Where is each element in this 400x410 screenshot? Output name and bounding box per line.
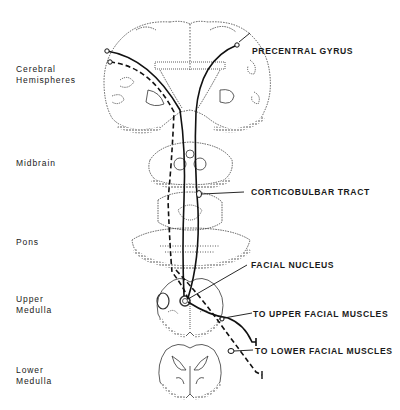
- label-pons: Pons: [16, 237, 39, 248]
- lower-medulla-section: [159, 344, 221, 398]
- upper-face-pathway: [107, 45, 256, 346]
- label-midbrain: Midbrain: [16, 158, 56, 169]
- callout-lower-facial-muscles: TO LOWER FACIAL MUSCLES: [255, 346, 393, 356]
- lower-face-pathway: [110, 62, 262, 375]
- cerebral-hemispheres: [104, 21, 270, 131]
- callout-facial-nucleus: FACIAL NUCLEUS: [251, 260, 334, 270]
- label-upper-medulla: Upper Medulla: [16, 294, 52, 316]
- callout-corticobulbar-tract: CORTICOBULBAR TRACT: [251, 187, 370, 197]
- upper-medulla-section: [157, 278, 223, 336]
- label-cerebral-hemispheres: Cerebral Hemispheres: [16, 64, 76, 86]
- label-lower-medulla: Lower Medulla: [16, 365, 52, 387]
- callout-precentral-gyrus: PRECENTRAL GYRUS: [252, 46, 353, 56]
- pons-section: [132, 192, 250, 268]
- midbrain-section: [149, 142, 232, 187]
- callout-upper-facial-muscles: TO UPPER FACIAL MUSCLES: [253, 309, 388, 319]
